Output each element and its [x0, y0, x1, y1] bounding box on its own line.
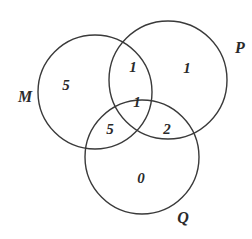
region-m-only: 5 — [62, 77, 70, 93]
region-m-p-q: 1 — [133, 94, 141, 110]
region-p-q: 2 — [162, 121, 171, 137]
set-q-label: Q — [177, 209, 189, 226]
set-p-label: P — [234, 39, 245, 56]
region-p-only: 1 — [183, 60, 191, 76]
region-m-q: 5 — [106, 121, 114, 137]
venn-diagram: M P Q 5 1 1 1 5 2 0 — [0, 0, 252, 239]
region-m-p: 1 — [129, 59, 137, 75]
set-m-label: M — [17, 88, 33, 105]
set-q-circle — [85, 100, 199, 214]
set-m-circle — [38, 35, 152, 149]
region-q-only: 0 — [137, 170, 145, 186]
